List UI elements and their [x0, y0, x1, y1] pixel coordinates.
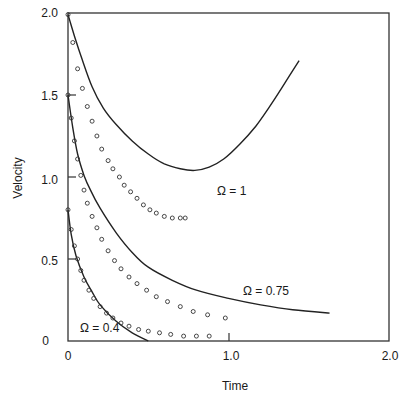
- series-markers: [66, 93, 227, 320]
- data-point-circle: [170, 216, 174, 220]
- data-point-circle: [207, 334, 211, 338]
- data-point-circle: [106, 159, 110, 163]
- annotation-omega-0-75: Ω = 0.75: [243, 284, 289, 298]
- series-markers: [66, 13, 187, 220]
- data-point-circle: [191, 310, 195, 314]
- data-point-circle: [90, 119, 94, 123]
- data-point-circle: [95, 134, 99, 138]
- annotation-omega-0-4: Ω = 0.4: [80, 321, 120, 335]
- data-point-circle: [80, 86, 84, 90]
- data-point-circle: [71, 41, 75, 45]
- y-axis-title: Velocity: [11, 157, 25, 198]
- data-point-circle: [145, 288, 149, 292]
- data-point-circle: [162, 214, 166, 218]
- data-point-circle: [194, 334, 198, 338]
- data-point-circle: [146, 329, 150, 333]
- series-line: [68, 95, 330, 313]
- data-point-circle: [158, 331, 162, 335]
- y-tick-label: 2.0: [41, 6, 58, 20]
- data-point-circle: [182, 334, 186, 338]
- data-point-circle: [100, 237, 104, 241]
- x-axis-title: Time: [222, 379, 249, 393]
- data-point-circle: [106, 249, 110, 253]
- data-point-circle: [169, 332, 173, 336]
- data-point-circle: [82, 188, 86, 192]
- data-point-circle: [135, 282, 139, 286]
- data-point-circle: [90, 214, 94, 218]
- series-layer: [66, 13, 330, 341]
- data-point-circle: [154, 211, 158, 215]
- data-point-circle: [79, 173, 83, 177]
- data-point-circle: [183, 216, 187, 220]
- data-point-circle: [178, 216, 182, 220]
- y-tick-label: 1.0: [41, 173, 58, 187]
- data-point-circle: [178, 305, 182, 309]
- data-point-circle: [206, 313, 210, 317]
- data-point-circle: [148, 208, 152, 212]
- plot-frame: [68, 13, 389, 341]
- data-point-circle: [85, 105, 89, 109]
- chart: 2.0 1.5 1.0 0.5 0 0 1.0 2.0 Time Velocit…: [0, 0, 404, 398]
- data-point-circle: [127, 324, 131, 328]
- x-tick-label: 0: [65, 349, 72, 363]
- annotation-omega-1: Ω = 1: [217, 184, 247, 198]
- y-tick-label: 0.5: [41, 254, 58, 268]
- data-point-circle: [223, 316, 227, 320]
- data-point-circle: [137, 328, 141, 332]
- data-point-circle: [119, 267, 123, 271]
- data-point-circle: [76, 67, 80, 71]
- data-point-circle: [95, 226, 99, 230]
- data-point-circle: [127, 275, 131, 279]
- data-point-circle: [122, 183, 126, 187]
- data-point-circle: [100, 147, 104, 151]
- data-point-circle: [135, 196, 139, 200]
- data-point-circle: [113, 259, 117, 263]
- data-point-circle: [154, 295, 158, 299]
- y-tick-label: 0: [42, 334, 49, 348]
- y-tick-label: 1.5: [41, 89, 58, 103]
- data-point-circle: [129, 190, 133, 194]
- data-point-circle: [166, 300, 170, 304]
- series-markers: [66, 208, 211, 338]
- x-tick-label: 1.0: [223, 349, 240, 363]
- data-point-circle: [111, 167, 115, 171]
- data-point-circle: [85, 201, 89, 205]
- data-point-circle: [117, 175, 121, 179]
- data-point-circle: [141, 203, 145, 207]
- data-point-circle: [87, 288, 91, 292]
- x-tick-label: 2.0: [382, 349, 399, 363]
